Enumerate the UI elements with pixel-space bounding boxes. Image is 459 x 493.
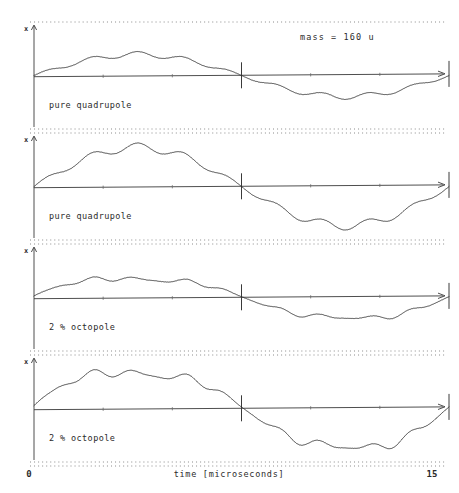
trajectory-panel-2: x2 % octopole: [24, 244, 449, 351]
y-axis-label: x: [24, 25, 29, 33]
panel-label: 2 % octopole: [49, 322, 115, 332]
panel-label: pure quadrupole: [49, 100, 132, 110]
trajectory-panel-0: xpure quadrupolemass = 160 u: [24, 22, 449, 129]
trajectory-trace: [34, 51, 449, 99]
x-axis-title: time [microseconds]: [174, 469, 285, 479]
x-axis-min-label: 0: [26, 469, 31, 479]
panels-layer: xpure quadrupolemass = 160 uxpure quadru…: [24, 22, 449, 466]
ion-trajectory-figure: xpure quadrupolemass = 160 uxpure quadru…: [0, 0, 459, 493]
x-axis-max-label: 15: [427, 469, 438, 479]
trajectory-panel-1: xpure quadrupole: [24, 133, 449, 240]
mass-annotation: mass = 160 u: [300, 32, 375, 42]
y-axis-label: x: [24, 136, 29, 144]
x-axis-line: [34, 296, 443, 299]
x-axis-group: 0 time [microseconds] 15: [26, 469, 437, 479]
x-axis-line: [34, 407, 443, 410]
x-axis-line: [34, 185, 443, 188]
panel-label: 2 % octopole: [49, 433, 115, 443]
panel-label: pure quadrupole: [49, 211, 132, 221]
y-axis-label: x: [24, 358, 29, 366]
y-axis-label: x: [24, 247, 29, 255]
trajectory-panel-3: x2 % octopole: [24, 355, 449, 462]
